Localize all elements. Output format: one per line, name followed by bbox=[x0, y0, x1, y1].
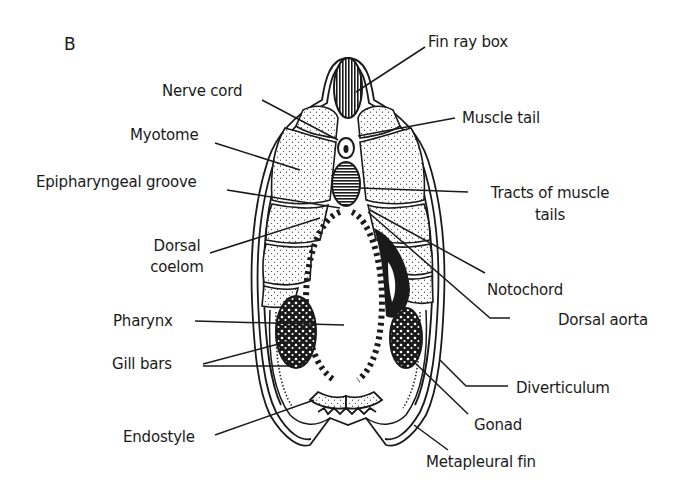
label-fin-ray-box: Fin ray box bbox=[428, 34, 508, 51]
amphioxus-section-drawing bbox=[0, 0, 696, 496]
label-metapleural-fin: Metapleural fin bbox=[426, 454, 536, 471]
gonad-left bbox=[276, 296, 316, 368]
label-myotome: Myotome bbox=[130, 127, 199, 144]
notochord-shape bbox=[332, 162, 360, 206]
label-endostyle: Endostyle bbox=[123, 429, 195, 446]
gonad-right bbox=[390, 308, 422, 368]
label-tracts-of-muscle-tails: Tracts of muscle tails bbox=[470, 185, 630, 224]
nerve-cord-shape bbox=[338, 138, 354, 158]
label-epipharyngeal-groove: Epipharyngeal groove bbox=[36, 174, 197, 191]
label-dorsal-coelom: Dorsal coelom bbox=[142, 238, 212, 276]
fin-ray-box-shape bbox=[334, 58, 362, 118]
label-gill-bars: Gill bars bbox=[112, 356, 172, 373]
label-dorsal-coelom-line2: coelom bbox=[142, 259, 212, 276]
panel-letter: B bbox=[64, 36, 75, 53]
label-nerve-cord: Nerve cord bbox=[162, 83, 242, 100]
label-tracts-line1: Tracts of muscle bbox=[470, 185, 630, 202]
label-gonad: Gonad bbox=[474, 417, 522, 434]
label-notochord: Notochord bbox=[487, 282, 563, 299]
endostyle-shape bbox=[310, 392, 382, 414]
label-dorsal-coelom-line1: Dorsal bbox=[142, 238, 212, 255]
label-diverticulum: Diverticulum bbox=[516, 380, 610, 397]
label-pharynx: Pharynx bbox=[113, 313, 173, 330]
label-tracts-line2: tails bbox=[470, 207, 630, 224]
diagram-canvas: B Fin ray box Nerve cord Muscle tail Myo… bbox=[0, 0, 696, 496]
label-muscle-tail: Muscle tail bbox=[462, 110, 540, 127]
label-dorsal-aorta: Dorsal aorta bbox=[558, 312, 648, 329]
